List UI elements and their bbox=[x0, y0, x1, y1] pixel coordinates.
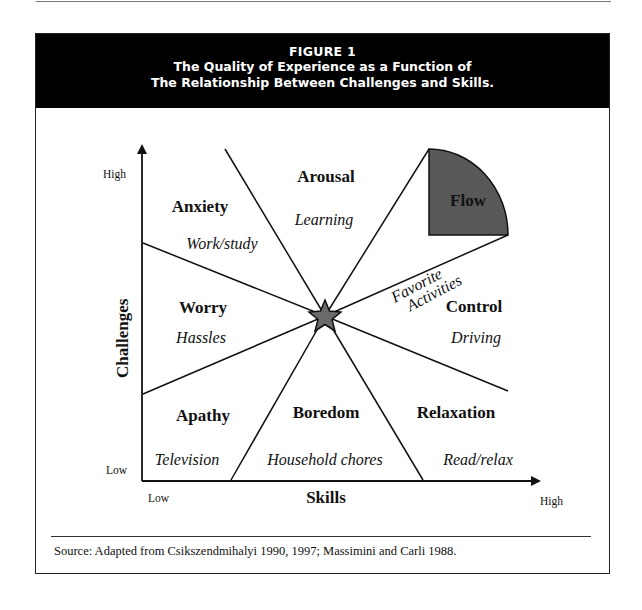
source-divider bbox=[51, 536, 591, 537]
region-flow-name: Flow bbox=[450, 191, 487, 210]
region-relaxation-name: Relaxation bbox=[417, 403, 496, 422]
star-icon bbox=[309, 300, 341, 331]
region-worry-name: Worry bbox=[179, 298, 228, 317]
page-top-rule bbox=[36, 1, 611, 2]
x-axis-title: Skills bbox=[306, 488, 346, 507]
y-axis-title: Challenges bbox=[113, 298, 132, 378]
region-anxiety-name: Anxiety bbox=[172, 197, 229, 216]
region-boredom-example: Household chores bbox=[266, 451, 382, 468]
figure-box: FIGURE 1 The Quality of Experience as a … bbox=[35, 33, 610, 574]
region-arousal-example: Learning bbox=[294, 211, 354, 229]
region-control-name: Control bbox=[446, 297, 503, 316]
region-arousal-name: Arousal bbox=[297, 167, 355, 186]
source-citation: Source: Adapted from Csikszendmihalyi 19… bbox=[54, 544, 456, 559]
region-apathy-name: Apathy bbox=[176, 406, 230, 425]
region-apathy-example: Television bbox=[155, 451, 219, 468]
region-worry-example: Hassles bbox=[175, 329, 226, 346]
region-relaxation-example: Read/relax bbox=[442, 451, 513, 468]
region-boredom-name: Boredom bbox=[293, 403, 360, 422]
region-anxiety-example: Work/study bbox=[186, 235, 258, 253]
y-low-label: Low bbox=[106, 464, 128, 476]
x-low-label: Low bbox=[148, 492, 170, 504]
x-high-label: High bbox=[540, 495, 563, 508]
y-high-label: High bbox=[103, 168, 126, 181]
flow-diagram: High Low Low High Challenges Skills Arou… bbox=[36, 34, 611, 534]
region-control-example: Driving bbox=[450, 329, 501, 347]
